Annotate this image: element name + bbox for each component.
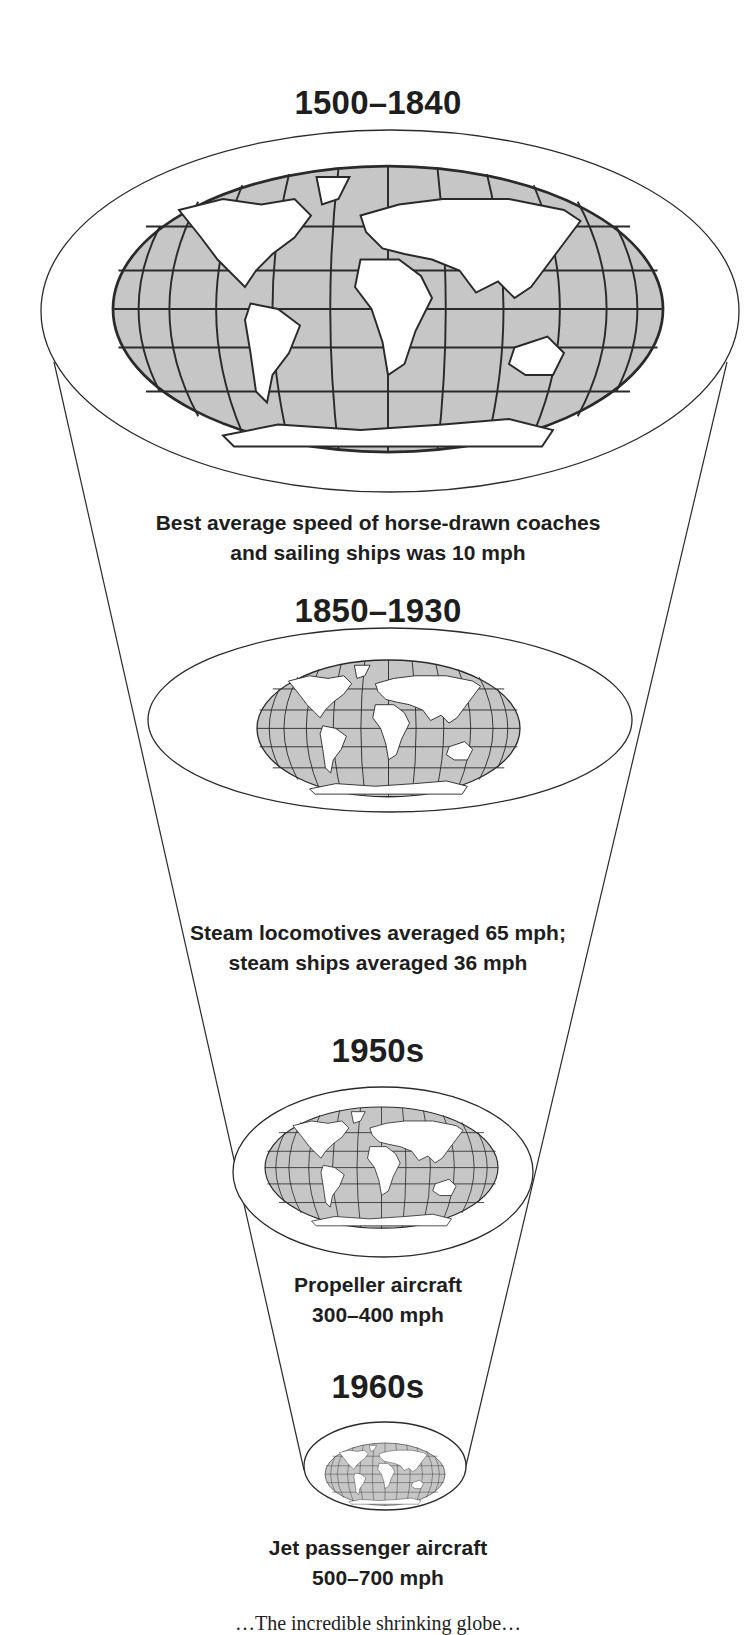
globe-1850-1930 xyxy=(148,628,632,812)
globe-1960s xyxy=(304,1422,466,1510)
stage-1-line-2: and sailing ships was 10 mph xyxy=(0,538,756,568)
stage-2-description: Steam locomotives averaged 65 mph; steam… xyxy=(0,918,756,978)
stage-1-line-1: Best average speed of horse-drawn coache… xyxy=(0,508,756,538)
stage-3-description: Propeller aircraft 300–400 mph xyxy=(0,1270,756,1330)
era-title-1950s: 1950s xyxy=(0,1032,756,1070)
stage-4-line-2: 500–700 mph xyxy=(0,1563,756,1593)
globe-1500-1840 xyxy=(41,130,739,492)
globe-1950s xyxy=(233,1087,533,1257)
stage-1-description: Best average speed of horse-drawn coache… xyxy=(0,508,756,568)
stage-2-line-2: steam ships averaged 36 mph xyxy=(0,948,756,978)
clipped-caption: …The incredible shrinking globe… xyxy=(0,1612,756,1635)
stage-2-line-1: Steam locomotives averaged 65 mph; xyxy=(0,918,756,948)
stage-4-description: Jet passenger aircraft 500–700 mph xyxy=(0,1533,756,1593)
stage-3-line-2: 300–400 mph xyxy=(0,1300,756,1330)
era-title-1850-1930: 1850–1930 xyxy=(0,592,756,630)
era-title-1500-1840: 1500–1840 xyxy=(0,84,756,122)
era-title-1960s: 1960s xyxy=(0,1368,756,1406)
stage-4-line-1: Jet passenger aircraft xyxy=(0,1533,756,1563)
stage-3-line-1: Propeller aircraft xyxy=(0,1270,756,1300)
